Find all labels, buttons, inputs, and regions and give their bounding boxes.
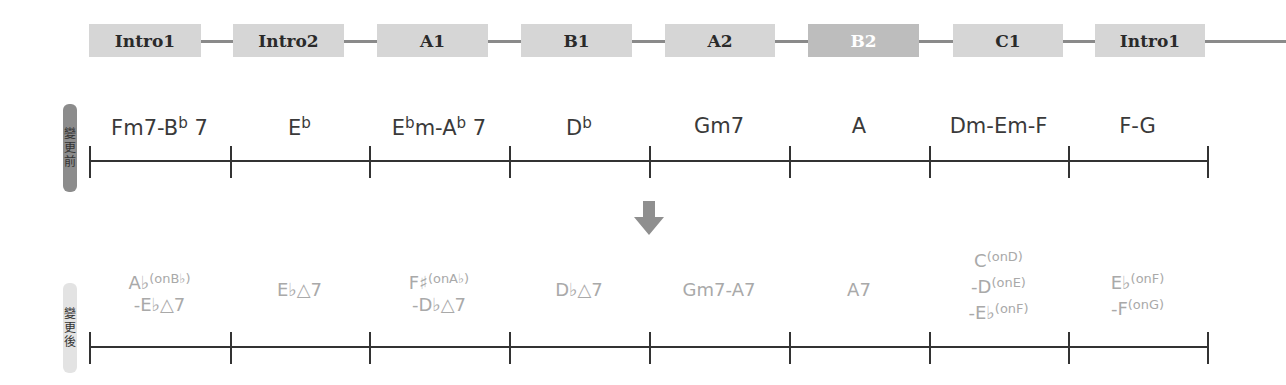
bar-tick <box>1068 332 1070 364</box>
after-chord-line: C(onD) <box>929 246 1069 272</box>
after-chord-line: A7 <box>789 279 929 301</box>
bar-tick <box>230 146 232 178</box>
bar-tick <box>369 332 371 364</box>
before-chord: Fm7-Bb 7 <box>90 114 230 140</box>
after-chord-line: -E♭△7 <box>90 294 230 316</box>
section-box-intro1: Intro1 <box>1095 24 1205 57</box>
section-box-a1: A1 <box>377 24 488 57</box>
section-box-intro2: Intro2 <box>233 24 344 57</box>
before-chord: Dm-Em-F <box>929 114 1069 138</box>
bar-tick <box>1207 332 1209 364</box>
section-box-c1: C1 <box>953 24 1063 57</box>
after-chord-line: -E♭(onF) <box>929 298 1069 324</box>
bar-tick <box>89 332 91 364</box>
bar-tick <box>230 332 232 364</box>
after-chord-line: D♭△7 <box>509 279 649 301</box>
section-box-a2: A2 <box>665 24 775 57</box>
down-arrow-icon <box>634 201 664 235</box>
after-chord: A7 <box>789 279 929 301</box>
after-chord-line: E♭(onF) <box>1068 268 1208 294</box>
before-chord: Eb <box>230 114 370 140</box>
section-box-b1: B1 <box>521 24 632 57</box>
after-label-char: 後 <box>64 335 76 349</box>
before-chord: Gm7 <box>649 114 789 138</box>
bar-tick <box>929 332 931 364</box>
bar-tick <box>369 146 371 178</box>
bar-tick <box>789 146 791 178</box>
after-chord-line: E♭△7 <box>230 279 370 301</box>
after-label-char: 變 <box>64 307 76 321</box>
bar-tick <box>789 332 791 364</box>
after-chord: E♭(onF)-F(onG) <box>1068 268 1208 320</box>
after-label-char: 更 <box>64 321 76 335</box>
bar-tick <box>509 146 511 178</box>
after-chord: E♭△7 <box>230 279 370 301</box>
after-chord-line: -D♭△7 <box>369 294 509 316</box>
before-chord: F-G <box>1068 114 1208 138</box>
bar-tick <box>509 332 511 364</box>
section-box-b2: B2 <box>808 24 919 57</box>
before-chord: Ebm-Ab 7 <box>369 114 509 140</box>
bar-tick <box>1207 146 1209 178</box>
after-chord: Gm7-A7 <box>649 279 789 301</box>
bar-tick <box>1068 146 1070 178</box>
bar-tick <box>649 146 651 178</box>
after-chord: A♭(onB♭)-E♭△7 <box>90 268 230 316</box>
after-chord-line: Gm7-A7 <box>649 279 789 301</box>
after-chord-line: -F(onG) <box>1068 294 1208 320</box>
before-label-char: 前 <box>64 155 76 169</box>
bar-tick <box>89 146 91 178</box>
after-label: 變 更 後 <box>63 283 77 373</box>
after-chord: F♯(onA♭)-D♭△7 <box>369 268 509 316</box>
after-chord: D♭△7 <box>509 279 649 301</box>
before-label: 變 更 前 <box>63 104 77 192</box>
bar-tick <box>649 332 651 364</box>
section-box-intro1: Intro1 <box>89 24 201 57</box>
before-chord: Db <box>509 114 649 140</box>
after-chord-line: A♭(onB♭) <box>90 268 230 294</box>
before-chord: A <box>789 114 929 138</box>
before-label-char: 變 <box>64 127 76 141</box>
after-chord-line: F♯(onA♭) <box>369 268 509 294</box>
before-label-char: 更 <box>64 141 76 155</box>
after-chord: C(onD)-D(onE)-E♭(onF) <box>929 246 1069 323</box>
bar-tick <box>929 146 931 178</box>
after-chord-line: -D(onE) <box>929 272 1069 298</box>
